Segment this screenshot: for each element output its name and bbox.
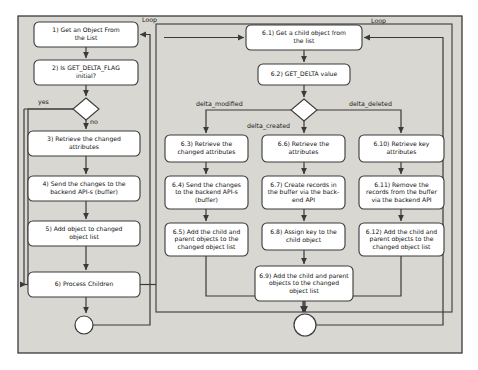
node-n4: 4) Send the changes to thebackend API-s … (28, 176, 140, 201)
node-label-n5: object list (69, 233, 99, 241)
node-label-n63: changed attributes (178, 148, 236, 156)
node-label-n611: via the backend API (371, 196, 431, 203)
node-n3: 3) Retrieve the changedattributes (28, 131, 140, 156)
edge-label-loop-left: Loop (142, 16, 157, 24)
node-n68: 6.8) Assign key to thechild object (262, 223, 345, 250)
node-label-n66: 6.6) Retrieve the (278, 140, 330, 147)
flowchart-svg: 1) Get an Object Fromthe List2) Is GET_D… (0, 0, 478, 370)
node-n6: 6) Process Children (28, 272, 140, 297)
node-n65: 6.5) Add the child andparent objects to … (165, 223, 248, 256)
node-label-n612: changed object list (373, 243, 432, 251)
node-n62: 6.2) GET_DELTA value (258, 64, 350, 85)
node-label-n65: 6.5) Add the child and (173, 228, 241, 235)
node-label-n611: 6.11) Remove the (374, 181, 429, 188)
node-label-n67: the buffer via the back- (268, 188, 340, 195)
node-label-n67: end API (292, 196, 315, 203)
node-label-n611: records from the buffer (366, 188, 437, 195)
node-n1: 1) Get an Object Fromthe List (34, 22, 138, 47)
node-n63: 6.3) Retrieve thechanged attributes (165, 135, 248, 162)
node-label-n66: attributes (289, 148, 319, 155)
node-n612: 6.12) Add the child andparent objects to… (359, 223, 444, 256)
node-label-n610: attributes (387, 148, 417, 155)
node-n69: 6.9) Add the child and parentobjects to … (255, 266, 353, 301)
node-label-n62: 6.2) GET_DELTA value (271, 70, 338, 78)
edge-label-loop-right: Loop (371, 17, 386, 25)
node-label-n65: changed object list (178, 243, 237, 251)
node-n66: 6.6) Retrieve theattributes (262, 135, 345, 162)
left-end-circle (75, 316, 93, 334)
node-n67: 6.7) Create records inthe buffer via the… (262, 176, 345, 209)
node-label-n69: object list (289, 287, 319, 295)
node-label-n612: 6.12) Add the child and (366, 228, 438, 235)
node-label-n61: the list (294, 37, 315, 44)
flowchart-canvas: 1) Get an Object Fromthe List2) Is GET_D… (0, 0, 478, 370)
node-n611: 6.11) Remove therecords from the bufferv… (359, 176, 444, 209)
edge-label-yes: yes (38, 98, 49, 106)
right-end-circle (294, 314, 316, 336)
edge-label-delta-created: delta_created (247, 122, 290, 130)
edge-label-delta-deleted: delta_deleted (349, 100, 392, 108)
node-label-n67: 6.7) Create records in (270, 181, 336, 188)
node-n61: 6.1) Get a child object fromthe list (246, 25, 362, 50)
node-label-n4: backend API-s (buffer) (50, 188, 118, 195)
node-n610: 6.10) Retrieve keyattributes (359, 135, 444, 162)
node-label-n1: the List (75, 34, 98, 41)
node-label-n63: 6.3) Retrieve the (181, 140, 233, 147)
node-label-n2: initial? (76, 72, 96, 79)
node-label-n6: 6) Process Children (55, 280, 114, 287)
node-n64: 6.4) Send the changesto the backend API-… (165, 176, 248, 209)
node-label-n64: to the backend API-s (175, 188, 238, 195)
node-label-n3: attributes (69, 143, 99, 150)
edge-label-no: no (90, 118, 98, 125)
node-label-n64: (buffer) (195, 196, 218, 203)
node-n2: 2) Is GET_DELTA_FLAGinitial? (34, 60, 138, 85)
edge-label-delta-modified: delta_modified (196, 100, 243, 108)
node-n5: 5) Add object to changedobject list (28, 221, 140, 246)
node-label-n68: child object (286, 236, 322, 244)
